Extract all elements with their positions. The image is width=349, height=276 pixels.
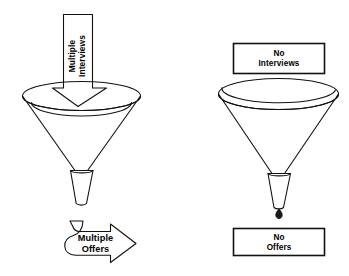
right-funnel-icon [219, 79, 339, 219]
right-funnel-cone [219, 94, 339, 175]
multiple-interviews-label-line2: Interviews [77, 35, 87, 77]
no-offers-box[interactable]: No Offers [234, 229, 325, 256]
right-funnel-rim [219, 79, 339, 110]
droplet-icon [276, 209, 282, 219]
left-funnel-cone [23, 96, 141, 172]
right-panel-unsuccessful-funnel: No Interviews No Offers [219, 44, 339, 256]
multiple-offers-label-line1: Multiple [78, 233, 114, 243]
multiple-interviews-label-line1: Multiple [67, 40, 77, 73]
right-funnel-inner-surface [222, 88, 336, 103]
multiple-offers-label-line2: Offers [82, 244, 110, 254]
no-offers-label-line2: Offers [267, 243, 292, 252]
funnel-comparison-figure: Multiple Interviews Multiple [0, 0, 349, 276]
diagram-canvas: Multiple Interviews Multiple [0, 0, 349, 276]
no-interviews-box[interactable]: No Interviews [234, 44, 325, 74]
no-interviews-label-line2: Interviews [258, 59, 299, 68]
no-offers-label-line1: No [273, 233, 284, 242]
right-funnel-neck [268, 174, 291, 209]
multiple-interviews-arrow[interactable]: Multiple Interviews [53, 15, 107, 107]
multiple-offers-arrow[interactable]: Multiple Offers [65, 221, 136, 263]
left-panel-successful-funnel: Multiple Interviews Multiple [23, 15, 141, 263]
left-funnel-neck [71, 171, 94, 206]
no-interviews-label-line1: No [273, 49, 284, 58]
